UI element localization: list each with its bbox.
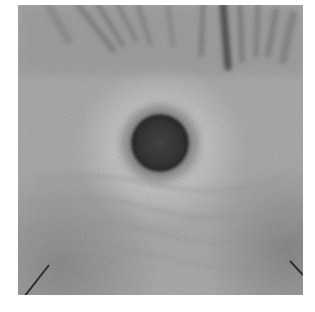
photograph-canvas <box>18 5 303 295</box>
photograph <box>18 5 303 295</box>
